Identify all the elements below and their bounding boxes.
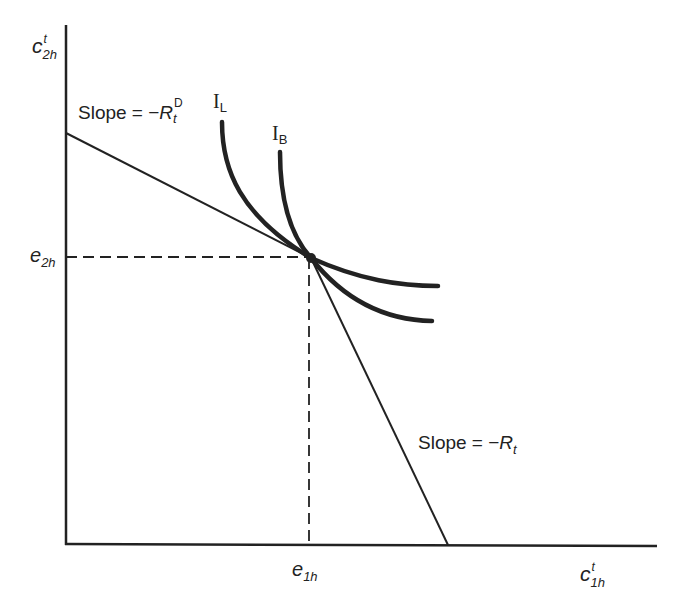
e1h-tick-label: e1h [292, 558, 318, 581]
x-axis [65, 544, 657, 546]
y-axis-label-sup: t [44, 32, 47, 46]
borrower-indifference-curve [280, 152, 432, 321]
upper-slope-sub: t [173, 111, 177, 126]
y-axis-label-base: c [32, 34, 43, 57]
lower-slope-label: Slope = −Rt [418, 432, 517, 454]
x-axis-label: ct1h [580, 562, 607, 586]
upper-slope-prefix: Slope = − [78, 102, 159, 123]
lower-budget-line [311, 258, 448, 545]
lower-slope-var: R [499, 432, 513, 453]
e1h-sub: 1h [303, 569, 317, 584]
lender-curve-label-sub: L [220, 100, 227, 115]
upper-slope-var: R [159, 102, 173, 123]
upper-budget-line [66, 133, 311, 258]
upper-slope-label: Slope = −RDt [78, 102, 187, 124]
lower-slope-sub: t [513, 442, 517, 457]
upper-slope-sup: D [174, 96, 183, 110]
e1h-base: e [292, 558, 303, 580]
e2h-sub: 2h [41, 255, 55, 270]
borrower-curve-label-sub: B [279, 132, 288, 147]
diagram-canvas [0, 0, 686, 608]
endowment-point [306, 253, 316, 263]
lender-curve-label-base: I [213, 90, 220, 112]
x-axis-label-base: c [580, 562, 591, 585]
e2h-tick-label: e2h [30, 244, 56, 267]
x-axis-label-sup: t [592, 560, 595, 574]
borrower-curve-label: IB [272, 122, 287, 145]
borrower-curve-label-base: I [272, 122, 279, 144]
x-axis-label-sub: 1h [591, 575, 605, 590]
e2h-base: e [30, 244, 41, 266]
lender-curve-label: IL [213, 90, 227, 113]
lower-slope-prefix: Slope = − [418, 432, 499, 453]
y-axis-label-sub: 2h [43, 47, 57, 62]
y-axis-label: ct2h [32, 34, 59, 58]
lender-indifference-curve [222, 122, 438, 286]
diagram: ct2h ct1h e2h e1h Slope = −RDt Slope = −… [0, 0, 686, 608]
